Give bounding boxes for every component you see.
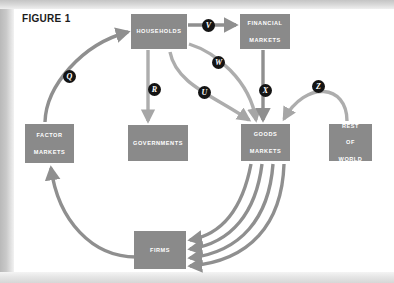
node-households-label: HOUSEHOLDS [135, 27, 184, 35]
flow-badge-x-letter: X [263, 87, 268, 95]
flow-badge-w[interactable]: W [212, 56, 225, 69]
node-rest-of-world-label: RESTOFWORLD [335, 122, 367, 163]
figure-page: FIGURE 1 [0, 0, 394, 283]
flow-badge-w-letter: W [215, 59, 222, 67]
flow-badge-z[interactable]: Z [312, 80, 325, 93]
flow-path-goods-to-firms-1 [190, 164, 251, 240]
flow-badge-u[interactable]: U [198, 86, 211, 99]
flow-badge-r[interactable]: R [148, 83, 161, 96]
flow-badge-z-letter: Z [316, 83, 321, 91]
flow-badge-v[interactable]: V [202, 19, 215, 32]
flow-badge-q-letter: Q [67, 73, 73, 81]
flow-badge-q[interactable]: Q [63, 70, 76, 83]
node-rest-of-world[interactable]: RESTOFWORLD [329, 124, 372, 161]
node-households[interactable]: HOUSEHOLDS [131, 14, 187, 49]
flow-path-w [189, 44, 256, 120]
node-goods-markets[interactable]: GOODSMARKETS [241, 124, 290, 161]
flow-path-u [170, 52, 249, 120]
node-firms-label: FIRMS [148, 246, 172, 254]
node-firms[interactable]: FIRMS [134, 231, 186, 269]
node-governments-label: GOVERNMENTS [131, 139, 185, 147]
node-financial-markets[interactable]: FINANCIALMARKETS [240, 14, 290, 49]
flow-path-firms-to-factor [51, 168, 138, 257]
node-governments[interactable]: GOVERNMENTS [128, 125, 188, 161]
flow-badge-x[interactable]: X [259, 84, 272, 97]
node-factor-markets-label: FACTORMARKETS [30, 131, 70, 155]
node-goods-markets-label: GOODSMARKETS [246, 130, 286, 154]
flow-path-z [284, 91, 347, 121]
flow-badge-u-letter: U [202, 89, 208, 97]
node-financial-markets-label: FINANCIALMARKETS [243, 19, 286, 43]
flow-badge-r-letter: R [152, 86, 157, 94]
flow-path-q [45, 32, 128, 122]
node-factor-markets[interactable]: FACTORMARKETS [25, 124, 74, 163]
flow-badge-v-letter: V [206, 22, 211, 30]
